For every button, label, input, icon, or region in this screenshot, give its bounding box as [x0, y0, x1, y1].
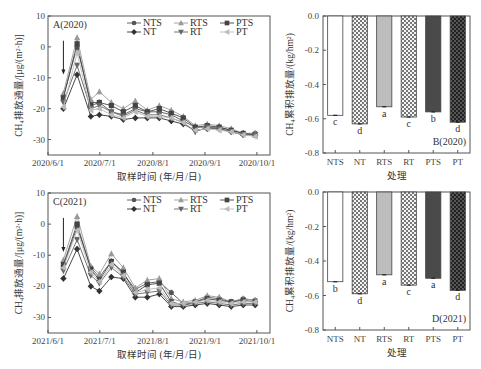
- y-tick-label: -0.4: [305, 80, 320, 90]
- y-axis-label: CH₄累积排放量/(kg/hm²): [284, 210, 296, 313]
- y-tick-label: -20: [33, 281, 45, 291]
- bar-pt: d: [450, 192, 465, 302]
- y-axis-label: CH₄排放通量/[μg/(m²·h)]: [13, 34, 25, 136]
- significance-letter: d: [357, 125, 362, 136]
- bar-rt: c: [401, 192, 416, 297]
- legend-item-nt: NT: [127, 26, 156, 37]
- x-axis-label: 取样时间 (年/月/日): [117, 349, 201, 361]
- y-tick-label: 10: [36, 188, 46, 198]
- line-chart-c: 100-10-20-302021/6/12021/7/12021/8/12021…: [13, 188, 275, 361]
- y-axis-label: CH₄累积排放量/(kg/hm²): [284, 33, 296, 136]
- significance-letter: b: [333, 283, 338, 294]
- panel-label: A(2020): [53, 19, 87, 31]
- significance-letter: b: [431, 113, 436, 124]
- x-axis-label: 取样时间 (年/月/日): [117, 171, 201, 183]
- y-tick-label: 0.0: [308, 11, 320, 21]
- x-tick-label: 2020/10/1: [239, 158, 276, 168]
- svg-text:RT: RT: [190, 26, 202, 37]
- significance-letter: d: [455, 123, 460, 134]
- panel-label: B(2020): [433, 136, 466, 148]
- significance-letter: c: [407, 286, 412, 297]
- legend-item-pt: PT: [220, 26, 248, 37]
- legend: NTSRTSPTSNTRTPT: [127, 17, 253, 37]
- plot-frame: [48, 193, 270, 333]
- x-tick-label: RT: [403, 157, 414, 167]
- bar-nts: b: [328, 192, 343, 294]
- x-tick-label: NT: [354, 157, 366, 167]
- bar-pts: b: [426, 16, 441, 124]
- series-pts: [61, 41, 258, 138]
- svg-text:NT: NT: [143, 26, 156, 37]
- significance-letter: a: [431, 279, 436, 290]
- svg-text:PT: PT: [236, 26, 248, 37]
- svg-text:PT: PT: [236, 203, 248, 214]
- panel-label: D(2021): [432, 313, 466, 325]
- x-tick-label: RT: [403, 334, 414, 344]
- x-tick-label: 2020/6/1: [32, 158, 64, 168]
- significance-letter: a: [382, 108, 387, 119]
- y-tick-label: -30: [33, 135, 45, 145]
- y-tick-label: -0.8: [305, 148, 320, 158]
- plot-frame: [323, 16, 470, 153]
- y-tick-label: -0.6: [305, 114, 320, 124]
- x-tick-label: RTS: [376, 157, 392, 167]
- y-tick-label: -20: [33, 104, 45, 114]
- y-tick-label: 10: [36, 11, 46, 21]
- x-tick-label: 2021/6/1: [32, 336, 64, 346]
- y-tick-label: -0.2: [305, 222, 319, 232]
- x-tick-label: 2021/10/1: [239, 336, 276, 346]
- significance-letter: c: [333, 116, 338, 127]
- bar-chart-d: 0.0-0.2-0.4-0.6-0.8bNTSdNTaRTScRTaPTSdPT…: [284, 187, 470, 358]
- y-tick-label: -0.8: [305, 325, 320, 335]
- legend-item-rt: RT: [174, 26, 202, 37]
- x-tick-label: 2020/9/1: [189, 158, 221, 168]
- significance-letter: c: [407, 118, 412, 129]
- bar-rts: a: [377, 16, 392, 119]
- x-tick-label: NTS: [327, 157, 344, 167]
- legend: NTSRTSPTSNTRTPT: [127, 194, 253, 214]
- bar-nts: c: [328, 16, 343, 127]
- y-tick-label: -30: [33, 312, 45, 322]
- x-tick-label: PT: [452, 157, 463, 167]
- significance-letter: a: [382, 276, 387, 287]
- y-tick-label: -10: [33, 250, 45, 260]
- y-axis-label: CH₄排放通量/[μg/(m²·h)]: [13, 212, 25, 314]
- series-nts: [61, 44, 258, 136]
- legend-item-nt: NT: [127, 203, 156, 214]
- x-tick-label: 2021/7/1: [84, 336, 116, 346]
- panel-label: C(2021): [53, 196, 86, 208]
- y-tick-label: -0.4: [305, 256, 320, 266]
- bar-pt: d: [450, 16, 465, 134]
- x-tick-label: RTS: [376, 334, 392, 344]
- y-tick-label: 0: [41, 42, 46, 52]
- y-tick-label: 0.0: [308, 187, 320, 197]
- bar-pts: a: [426, 192, 441, 290]
- bar-chart-b: 0.0-0.2-0.4-0.6-0.8cNTSdNTaRTScRTbPTSdPT…: [284, 11, 470, 181]
- x-axis-label: 处理: [387, 347, 407, 358]
- x-tick-label: 2021/9/1: [189, 336, 221, 346]
- x-tick-label: NT: [354, 334, 366, 344]
- x-tick-label: PT: [452, 334, 463, 344]
- bar-nt: d: [352, 192, 367, 306]
- x-tick-label: PTS: [425, 334, 441, 344]
- line-chart-a: 100-10-20-302020/6/12020/7/12020/8/12020…: [13, 11, 275, 183]
- figure-canvas: 100-10-20-302020/6/12020/7/12020/8/12020…: [0, 0, 481, 369]
- x-tick-label: 2021/8/1: [137, 336, 169, 346]
- svg-text:RT: RT: [190, 203, 202, 214]
- x-tick-label: 2020/8/1: [137, 158, 169, 168]
- x-tick-label: NTS: [327, 334, 344, 344]
- y-tick-label: 0: [41, 219, 46, 229]
- x-tick-label: PTS: [425, 157, 441, 167]
- significance-letter: d: [455, 291, 460, 302]
- bar-rt: c: [401, 16, 416, 129]
- y-tick-label: -0.2: [305, 45, 319, 55]
- bar-nt: d: [352, 16, 367, 136]
- plot-frame: [323, 192, 470, 330]
- significance-letter: d: [357, 295, 362, 306]
- x-tick-label: 2020/7/1: [84, 158, 116, 168]
- legend-item-rt: RT: [174, 203, 202, 214]
- svg-text:NT: NT: [143, 203, 156, 214]
- bar-rts: a: [377, 192, 392, 287]
- x-axis-label: 处理: [387, 170, 407, 181]
- y-tick-label: -0.6: [305, 291, 320, 301]
